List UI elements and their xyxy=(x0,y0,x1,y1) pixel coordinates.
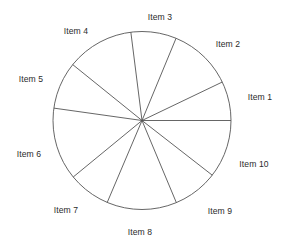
pie-slice-label-3: Item 3 xyxy=(148,13,172,22)
pie-slice-label-2: Item 2 xyxy=(216,40,240,49)
pie-slice-label-9: Item 9 xyxy=(208,207,232,216)
pie-slice-label-7: Item 7 xyxy=(54,206,78,215)
pie-chart-canvas xyxy=(0,0,285,250)
pie-slice-label-8: Item 8 xyxy=(128,228,152,237)
pie-slice-label-4: Item 4 xyxy=(64,27,88,36)
pie-slice-label-6: Item 6 xyxy=(17,150,41,159)
pie-slice-label-1: Item 1 xyxy=(248,93,272,102)
pie-slice-label-5: Item 5 xyxy=(19,75,43,84)
pie-chart: Item 1Item 2Item 3Item 4Item 5Item 6Item… xyxy=(0,0,285,250)
pie-slice-label-10: Item 10 xyxy=(239,160,268,169)
